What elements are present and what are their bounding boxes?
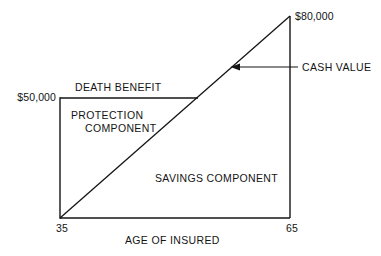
value-label-mid: $50,000 [0,91,56,103]
diagram-canvas [0,0,381,256]
x-axis-tick-label-end: 65 [286,222,298,234]
cash-value-label: CASH VALUE [302,61,371,73]
x-axis-title: AGE OF INSURED [125,234,220,246]
protection-component-label-line2: COMPONENT [85,122,156,134]
cash-value-annotation-arrow [231,63,299,70]
insurance-diagram-figure: $80,000 $50,000 DEATH BENEFIT PROTECTION… [0,0,381,256]
x-axis-tick-label-start: 35 [56,222,68,234]
value-label-top: $80,000 [295,10,334,22]
death-benefit-label: DEATH BENEFIT [75,81,162,93]
protection-component-label-line1: PROTECTION [71,109,143,121]
savings-component-label: SAVINGS COMPONENT [155,172,278,184]
